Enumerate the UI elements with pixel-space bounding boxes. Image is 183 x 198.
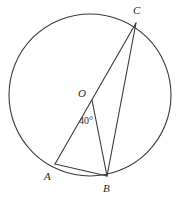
angle-measure-label: 40° xyxy=(79,116,93,126)
vertex-label-a: A xyxy=(44,171,51,182)
center-label-o: O xyxy=(78,88,86,99)
circle-outline xyxy=(9,14,171,176)
geometry-figure: C O A B 40° xyxy=(0,0,183,198)
segment-c-to-b xyxy=(107,23,136,176)
circle-diagram-canvas xyxy=(0,0,183,198)
segment-o-to-b xyxy=(92,100,107,176)
segment-c-to-a xyxy=(55,23,136,164)
segment-a-to-b xyxy=(55,164,107,176)
vertex-label-b: B xyxy=(103,183,110,194)
vertex-label-c: C xyxy=(133,5,140,16)
